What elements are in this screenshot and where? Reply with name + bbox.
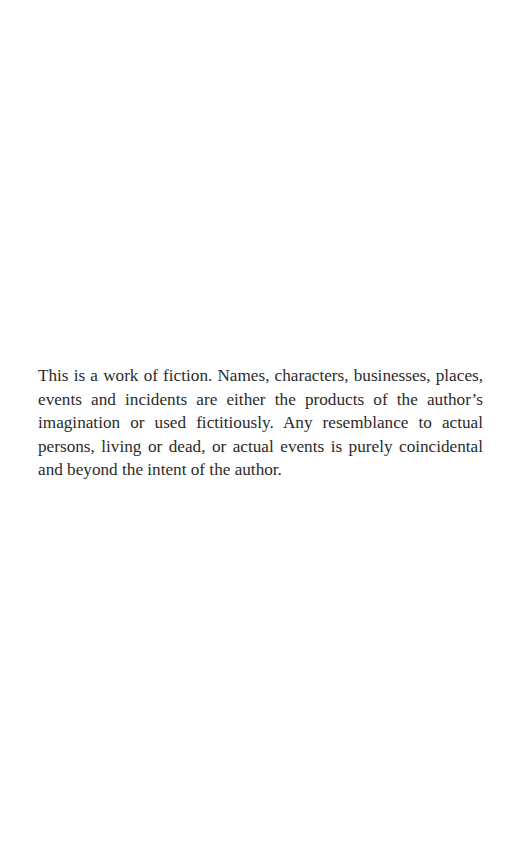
fiction-disclaimer-paragraph: This is a work of fiction. Names, charac… [38,364,483,482]
book-page: This is a work of fiction. Names, charac… [0,0,520,868]
